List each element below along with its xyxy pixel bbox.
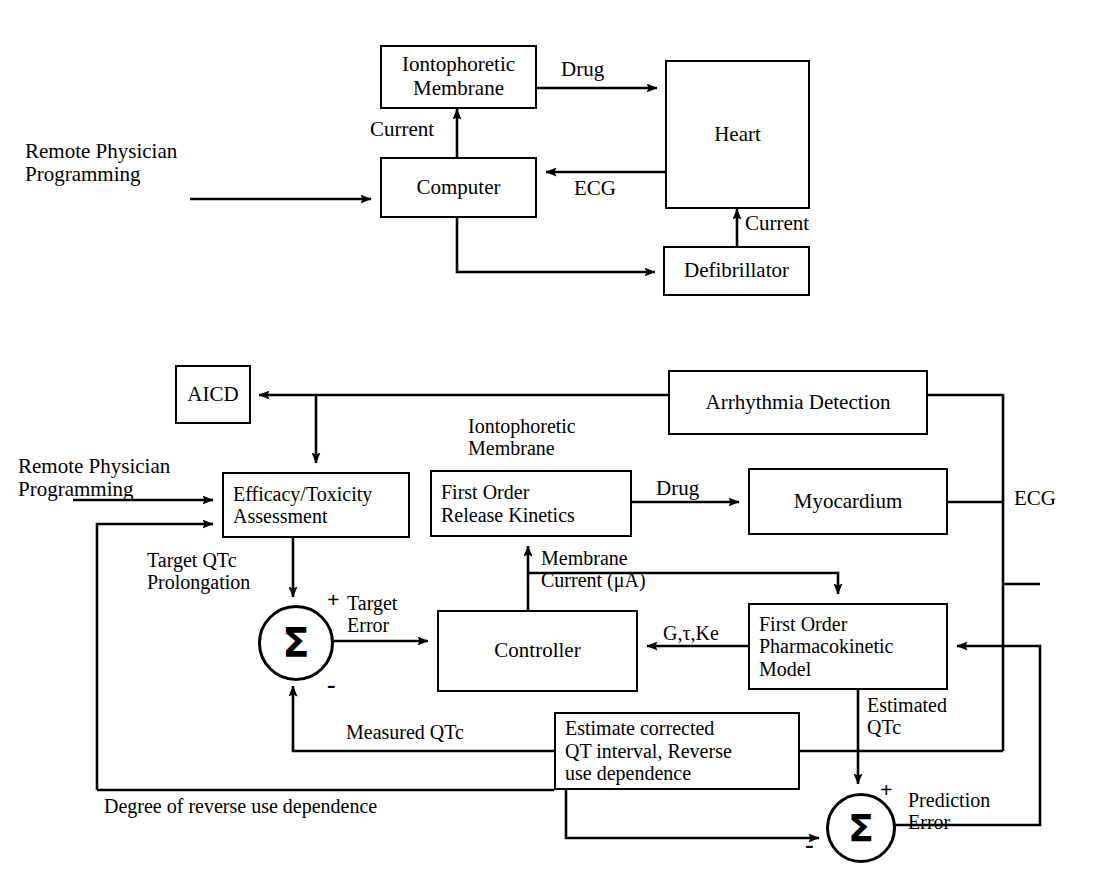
label-degree-of-reverse-use-dependence: Degree of reverse use dependence xyxy=(104,795,377,817)
label-ecg-bottom: ECG xyxy=(1014,487,1056,510)
block-efficacy-toxicity-assessment[interactable]: Efficacy/Toxicity Assessment xyxy=(222,472,410,538)
block-defibrillator[interactable]: Defibrillator xyxy=(663,246,810,296)
block-aicd[interactable]: AICD xyxy=(175,365,251,424)
label-drug-top: Drug xyxy=(561,58,604,81)
label-current-to-membrane: Current xyxy=(370,118,434,141)
block-label: First Order Pharmacokinetic Model xyxy=(750,613,897,680)
sum-prediction-error-plus-sign: + xyxy=(880,779,893,801)
label-prediction-error: Prediction Error xyxy=(908,789,990,833)
sum-node-target-error[interactable]: Σ xyxy=(258,605,334,681)
block-label: Myocardium xyxy=(790,490,906,514)
label-remote-physician-programming-bottom: Remote Physician Programming xyxy=(18,455,170,501)
label-estimated-qtc: Estimated QTc xyxy=(867,694,947,738)
sum-prediction-error-minus-sign: - xyxy=(805,832,814,858)
block-first-order-pharmacokinetic-model[interactable]: First Order Pharmacokinetic Model xyxy=(748,603,948,690)
block-label: Arrhythmia Detection xyxy=(702,391,895,415)
block-heart[interactable]: Heart xyxy=(665,60,810,209)
sum-target-error-minus-sign: - xyxy=(327,672,336,698)
block-controller[interactable]: Controller xyxy=(437,610,638,692)
sum-node-prediction-error[interactable]: Σ xyxy=(826,793,896,863)
block-label: Heart xyxy=(710,123,765,147)
block-label: Computer xyxy=(413,176,505,200)
sigma-glyph: Σ xyxy=(848,806,874,850)
label-target-error: Target Error xyxy=(347,592,397,636)
block-label: Defibrillator xyxy=(680,259,793,283)
block-label: AICD xyxy=(183,383,242,407)
sum-target-error-plus-sign: + xyxy=(327,589,340,611)
block-label: Efficacy/Toxicity Assessment xyxy=(224,483,376,528)
label-measured-qtc: Measured QTc xyxy=(346,721,464,743)
figure-canvas: Iontophoretic Membrane Computer Heart De… xyxy=(0,0,1094,880)
block-iontophoretic-membrane[interactable]: Iontophoretic Membrane xyxy=(380,45,537,109)
label-membrane-current: Membrane Current (μA) xyxy=(541,547,646,591)
label-remote-physician-programming-top: Remote Physician Programming xyxy=(25,140,177,186)
block-label: Iontophoretic Membrane xyxy=(398,53,519,100)
block-arrhythmia-detection[interactable]: Arrhythmia Detection xyxy=(668,370,928,435)
label-iontophoretic-membrane-caption: Iontophoretic Membrane xyxy=(468,415,576,459)
block-first-order-release-kinetics[interactable]: First Order Release Kinetics xyxy=(430,470,632,537)
sigma-glyph: Σ xyxy=(282,620,309,666)
block-myocardium[interactable]: Myocardium xyxy=(748,468,948,535)
label-gain-tau-ke: G,τ,Ke xyxy=(663,622,719,644)
wire-computer-to-defibrillator xyxy=(457,218,655,272)
label-ecg-top: ECG xyxy=(574,177,616,200)
label-drug-bottom: Drug xyxy=(656,477,699,500)
block-computer[interactable]: Computer xyxy=(380,157,537,218)
block-label: Controller xyxy=(490,639,584,663)
block-label: First Order Release Kinetics xyxy=(432,481,579,526)
label-current-to-heart: Current xyxy=(745,212,809,235)
wire-ecg-bus-to-pk xyxy=(957,646,1040,751)
block-label: Estimate corrected QT interval, Reverse … xyxy=(556,717,736,784)
label-target-qtc-prolongation: Target QTc Prolongation xyxy=(147,549,250,593)
block-estimate-corrected-qt[interactable]: Estimate corrected QT interval, Reverse … xyxy=(554,712,800,790)
